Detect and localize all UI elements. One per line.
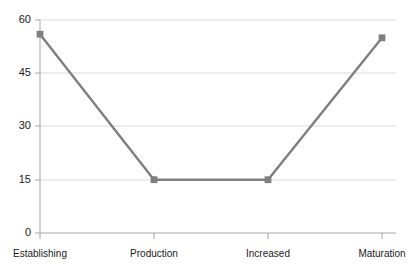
x-tick-label-production: Production: [94, 248, 214, 260]
y-tick-label-45: 45: [5, 67, 31, 78]
y-axis-ticks: [35, 20, 40, 233]
chart-canvas: [0, 0, 408, 271]
data-markers: [37, 31, 386, 183]
y-tick-label-15: 15: [5, 174, 31, 185]
line-chart: 60 45 30 15 0 Establishing Production In…: [0, 0, 408, 271]
gridlines: [40, 20, 396, 180]
data-point-maturation: [379, 34, 386, 41]
x-tick-label-increased: Increased: [208, 248, 328, 260]
data-point-production: [151, 176, 158, 183]
x-tick-label-establishing: Establishing: [0, 248, 100, 260]
data-point-establishing: [37, 31, 44, 38]
y-tick-label-0: 0: [5, 227, 31, 238]
y-tick-label-60: 60: [5, 14, 31, 25]
data-point-increased: [265, 176, 272, 183]
x-axis-ticks: [40, 233, 382, 239]
x-tick-label-maturation: Maturation: [322, 248, 408, 260]
y-tick-label-30: 30: [5, 120, 31, 131]
data-line-series-1: [40, 34, 382, 180]
